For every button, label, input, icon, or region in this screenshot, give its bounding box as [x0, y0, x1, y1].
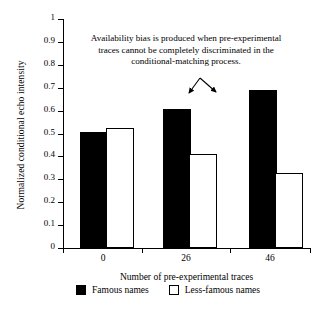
- annotation-line-2: traces cannot be completely discriminate…: [60, 45, 312, 57]
- y-axis-label: Normalized conditional echo intensity: [16, 20, 26, 250]
- x-tick-mark: [230, 248, 231, 253]
- y-tick-label: 0.2: [44, 195, 55, 205]
- y-tick-label: 1: [51, 12, 56, 22]
- annotation-text: Availability bias is produced when pre-e…: [60, 33, 312, 68]
- bar-famous-46: [249, 90, 277, 248]
- bar-famous-26: [163, 109, 191, 248]
- legend-item-famous: Famous names: [76, 285, 149, 295]
- open-square-icon: [169, 285, 179, 295]
- y-tick-label: 0: [51, 241, 56, 251]
- bar-less-famous-26: [189, 154, 217, 248]
- x-tick-mark: [63, 248, 64, 253]
- bar-less-famous-0: [106, 128, 134, 248]
- x-tick-label-26: 26: [156, 253, 216, 263]
- annotation-line-1: Availability bias is produced when pre-e…: [60, 33, 312, 45]
- x-axis-label: Number of pre-experimental traces: [63, 272, 310, 282]
- legend-item-less-famous: Less-famous names: [169, 285, 260, 295]
- bar-famous-0: [80, 132, 108, 249]
- x-tick-mark: [310, 248, 311, 253]
- x-tick-label-0: 0: [73, 253, 133, 263]
- y-tick-label: 0.8: [44, 58, 55, 68]
- x-axis-line: [63, 248, 311, 249]
- y-tick-label: 0.9: [44, 35, 55, 45]
- y-tick-label: 0.5: [44, 127, 55, 137]
- annotation-line-3: conditional-matching process.: [60, 56, 312, 68]
- x-tick-label-46: 46: [240, 253, 300, 263]
- legend-label-less-famous: Less-famous names: [185, 285, 260, 295]
- filled-square-icon: [76, 285, 86, 295]
- y-tick-label: 0.1: [44, 218, 55, 228]
- bar-less-famous-46: [275, 173, 303, 248]
- chart-figure: Normalized conditional echo intensity 0 …: [0, 0, 336, 309]
- y-tick-label: 0.4: [44, 149, 55, 159]
- y-tick-label: 0.3: [44, 172, 55, 182]
- chart-legend: Famous names Less-famous names: [0, 285, 336, 295]
- y-tick-label: 0.7: [44, 81, 55, 91]
- x-tick-mark: [142, 248, 143, 253]
- legend-label-famous: Famous names: [92, 285, 149, 295]
- y-tick-label: 0.6: [44, 104, 55, 114]
